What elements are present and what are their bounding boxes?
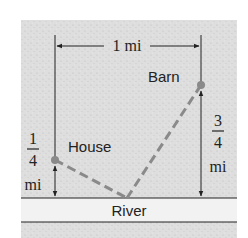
river-label: River <box>111 202 146 219</box>
barn-label: Barn <box>148 68 180 85</box>
barn-distance-numerator: 3 <box>214 112 222 129</box>
barn-distance-unit: mi <box>210 158 227 175</box>
house-distance-denominator: 4 <box>29 152 37 169</box>
house-distance-numerator: 1 <box>29 130 37 147</box>
house-label: House <box>68 138 111 155</box>
barn-point-icon <box>197 81 205 89</box>
land-area-south <box>21 222 237 238</box>
house-distance-unit: mi <box>25 176 42 193</box>
width-label: 1 mi <box>113 37 142 54</box>
barn-distance-denominator: 4 <box>214 134 222 151</box>
house-barn-river-diagram: River 1 mi House Barn 1 4 mi 3 4 mi <box>0 0 248 238</box>
house-point-icon <box>51 156 59 164</box>
